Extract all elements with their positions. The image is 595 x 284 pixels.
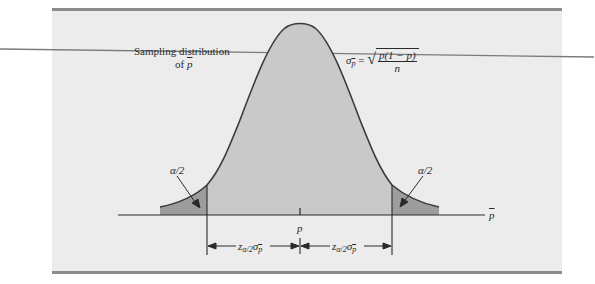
sqrt-icon: √ — [367, 50, 376, 67]
formula-numerator: p(1 − p) — [378, 49, 417, 62]
right-tail-label: α/2 — [418, 164, 432, 176]
radicand: p(1 − p) n — [376, 48, 419, 74]
distribution-graphic — [0, 0, 595, 284]
sigma-subscript: p — [258, 245, 262, 254]
distribution-subtitle: of p — [175, 58, 192, 70]
diagram-stage: Sampling distribution of p σp = √ p(1 − … — [0, 0, 595, 284]
axis-p-bar-label: p — [489, 209, 495, 221]
standard-error-formula: σp = √ p(1 − p) n — [346, 48, 419, 74]
formula-denominator: n — [395, 62, 401, 74]
sigma-subscript: p — [351, 59, 355, 68]
center-p-label: p — [297, 222, 303, 234]
left-interval-label: zα/2σp — [238, 240, 262, 256]
z-subscript: α/2 — [336, 245, 346, 254]
equals-sign: = — [358, 54, 364, 66]
right-interval-label: zα/2σp — [332, 240, 356, 256]
z-subscript: α/2 — [242, 245, 252, 254]
subtitle-prefix: of — [175, 58, 187, 70]
sigma-subscript: p — [352, 245, 356, 254]
p-bar-symbol: p — [187, 58, 193, 70]
distribution-title: Sampling distribution — [134, 45, 230, 57]
left-tail-label: α/2 — [170, 164, 184, 176]
